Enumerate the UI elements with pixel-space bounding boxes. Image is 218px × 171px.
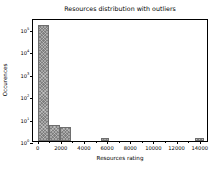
x-axis-label: Resources rating [32,155,208,161]
x-tick-mark [84,141,85,144]
y-tick-minor-mark [32,99,34,100]
y-tick-minor-mark [32,91,34,92]
y-tick-minor-mark [32,57,34,58]
y-tick-minor-mark [32,77,34,78]
y-tick-minor-mark [32,55,34,56]
y-tick-minor-mark [32,107,34,108]
y-tick-label: 103 [21,73,30,79]
y-tick-minor-mark [32,40,34,41]
x-tick-minor-mark [72,141,73,143]
y-tick-minor-mark [32,132,34,133]
y-tick-minor-mark [32,78,34,79]
y-tick-minor-mark [32,34,34,35]
y-tick-minor-mark [32,54,34,55]
y-tick-minor-mark [32,136,34,137]
y-tick-minor-mark [32,110,34,111]
x-tick-label: 8000 [124,145,137,151]
y-tick-minor-mark [32,33,34,34]
x-tick-label: 14000 [191,145,208,151]
x-tick-mark [130,141,131,144]
y-axis-label: Occurences [2,64,8,97]
x-tick-minor-mark [188,141,189,143]
histogram-bar [101,138,110,141]
y-tick-minor-mark [32,85,34,86]
x-tick-mark [200,141,201,144]
y-tick-mark [30,53,33,54]
y-tick-label: 102 [21,95,30,101]
y-tick-minor-mark [32,124,34,125]
y-tick-minor-mark [32,36,34,37]
x-tick-mark [38,141,39,144]
y-tick-minor-mark [32,60,34,61]
x-tick-label: 4000 [77,145,90,151]
y-tick-minor-mark [32,20,34,21]
y-tick-minor-mark [32,129,34,130]
y-tick-label: 100 [21,140,30,146]
y-tick-minor-mark [32,69,34,70]
y-tick-minor-mark [32,126,34,127]
bars-layer [33,20,207,141]
x-tick-label: 12000 [168,145,185,151]
y-tick-minor-mark [32,105,34,106]
histogram-bar [38,25,49,141]
y-tick-mark [30,98,33,99]
y-tick-minor-mark [32,82,34,83]
y-tick-minor-mark [32,46,34,47]
y-tick-label: 101 [21,118,30,124]
x-tick-mark [107,141,108,144]
y-tick-minor-mark [32,42,34,43]
y-tick-mark [30,121,33,122]
y-tick-minor-mark [32,79,34,80]
y-tick-label: 104 [21,50,30,56]
y-tick-minor-mark [32,122,34,123]
y-tick-minor-mark [32,81,34,82]
y-tick-minor-mark [32,100,34,101]
histogram-bar [49,125,60,141]
x-tick-label: 0 [36,145,39,151]
x-tick-minor-mark [49,141,50,143]
y-tick-minor-mark [32,62,34,63]
y-tick-mark [30,143,33,144]
y-tick-minor-mark [32,37,34,38]
x-tick-minor-mark [119,141,120,143]
plot-area: 100101102103104105 020004000600080001000… [32,19,208,142]
x-tick-minor-mark [165,141,166,143]
y-tick-minor-mark [32,32,34,33]
x-tick-mark [153,141,154,144]
y-tick-minor-mark [32,24,34,25]
x-tick-label: 10000 [145,145,162,151]
y-tick-minor-mark [32,58,34,59]
x-tick-minor-mark [96,141,97,143]
x-tick-mark [177,141,178,144]
histogram-bar [60,127,71,141]
y-tick-mark [30,31,33,32]
x-tick-label: 2000 [54,145,67,151]
chart-title: Resources distribution with outliers [32,5,208,12]
y-tick-minor-mark [32,102,34,103]
y-tick-minor-mark [32,87,34,88]
y-tick-minor-mark [32,114,34,115]
y-tick-label: 105 [21,28,30,34]
y-tick-minor-mark [32,127,34,128]
y-tick-minor-mark [32,123,34,124]
y-tick-minor-mark [32,65,34,66]
y-tick-minor-mark [32,103,34,104]
x-tick-mark [61,141,62,144]
x-tick-label: 6000 [100,145,113,151]
y-tick-mark [30,76,33,77]
histogram-figure: Resources distribution with outliers 100… [0,0,218,171]
x-tick-minor-mark [142,141,143,143]
